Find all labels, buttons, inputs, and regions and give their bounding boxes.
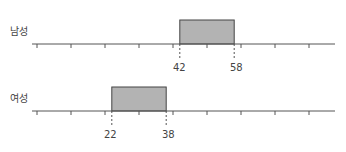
- range-bar: [112, 87, 166, 111]
- chart-canvas: [0, 0, 346, 152]
- range-bar: [180, 20, 234, 44]
